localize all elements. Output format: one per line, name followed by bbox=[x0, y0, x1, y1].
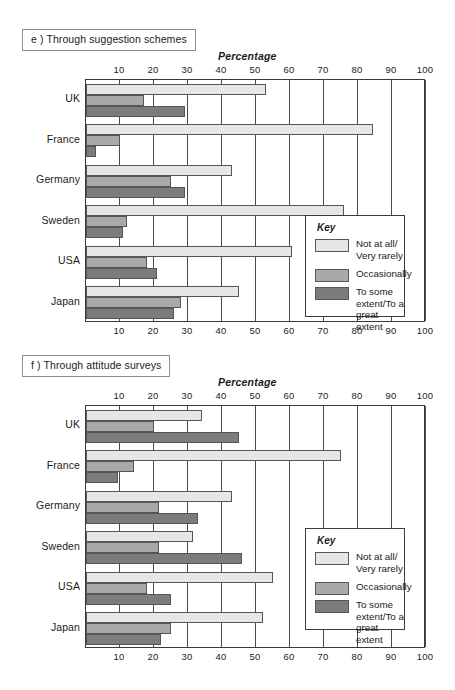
key-entry: Not at all/ Very rarely bbox=[315, 238, 403, 261]
category-label: Germany bbox=[2, 499, 80, 511]
bar bbox=[86, 542, 159, 553]
bar bbox=[86, 634, 161, 645]
bar-group bbox=[86, 487, 424, 528]
x-tick-label: 20 bbox=[148, 390, 159, 401]
x-tick-label: 60 bbox=[284, 64, 295, 75]
panel-e-axis-title: Percentage bbox=[218, 50, 277, 62]
category-label: France bbox=[2, 459, 80, 471]
key-swatch bbox=[315, 552, 349, 565]
bar bbox=[86, 84, 266, 95]
bar-group bbox=[86, 121, 424, 162]
key-label: Not at all/ Very rarely bbox=[356, 551, 403, 574]
key-entry: Not at all/ Very rarely bbox=[315, 551, 403, 574]
bar-group bbox=[86, 80, 424, 121]
bar bbox=[86, 531, 193, 542]
x-tick-label: 60 bbox=[284, 390, 295, 401]
key-label: Not at all/ Very rarely bbox=[356, 238, 403, 261]
key-entry: Occasionally bbox=[315, 581, 412, 595]
x-tick-label: 100 bbox=[417, 64, 433, 75]
bar bbox=[86, 176, 171, 187]
panel-f-key: Key Not at all/ Very rarelyOccasionallyT… bbox=[305, 528, 405, 630]
x-tick-label: 30 bbox=[182, 64, 193, 75]
x-tick-label: 50 bbox=[250, 64, 261, 75]
key-swatch bbox=[315, 239, 349, 252]
category-label: UK bbox=[2, 418, 80, 430]
bar bbox=[86, 502, 159, 513]
bar bbox=[86, 297, 181, 308]
bar bbox=[86, 583, 147, 594]
x-tick-label: 40 bbox=[216, 390, 227, 401]
x-tick-label: 50 bbox=[250, 390, 261, 401]
category-label: Sweden bbox=[2, 214, 80, 226]
panel-e-title: e ) Through suggestion schemes bbox=[22, 29, 196, 51]
key-entry: To some extent/To a great extent bbox=[315, 599, 404, 645]
panel-f: f ) Through attitude surveys Percentage … bbox=[0, 330, 455, 690]
bar bbox=[86, 432, 239, 443]
category-label: UK bbox=[2, 92, 80, 104]
x-tick-label: 90 bbox=[386, 64, 397, 75]
x-tick-label: 70 bbox=[318, 64, 329, 75]
x-tick-label: 50 bbox=[250, 651, 261, 662]
bar bbox=[86, 572, 273, 583]
category-label: Japan bbox=[2, 295, 80, 307]
key-swatch bbox=[315, 269, 349, 282]
bar bbox=[86, 146, 96, 157]
category-label: Germany bbox=[2, 173, 80, 185]
key-heading: Key bbox=[317, 535, 335, 546]
bar-group bbox=[86, 161, 424, 202]
x-tick-label: 80 bbox=[352, 64, 363, 75]
bar bbox=[86, 106, 185, 117]
panel-f-tick-labels: 102030405060708090100 bbox=[85, 390, 425, 404]
bar bbox=[86, 623, 171, 634]
bar bbox=[86, 594, 171, 605]
panel-f-title: f ) Through attitude surveys bbox=[22, 355, 170, 377]
x-tick-label: 20 bbox=[148, 651, 159, 662]
category-label: Japan bbox=[2, 621, 80, 633]
panel-f-tick-labels-bottom: 102030405060708090100 bbox=[85, 651, 425, 665]
bar bbox=[86, 135, 120, 146]
x-tick-label: 40 bbox=[216, 64, 227, 75]
x-tick-label: 10 bbox=[114, 64, 125, 75]
panel-e: e ) Through suggestion schemes Percentag… bbox=[0, 0, 455, 330]
key-label: Occasionally bbox=[356, 268, 412, 280]
bar bbox=[86, 421, 154, 432]
x-tick-label: 60 bbox=[284, 651, 295, 662]
category-label: Sweden bbox=[2, 540, 80, 552]
bar bbox=[86, 553, 242, 564]
x-tick-label: 90 bbox=[386, 390, 397, 401]
bar bbox=[86, 268, 157, 279]
key-swatch bbox=[315, 287, 349, 300]
key-swatch bbox=[315, 582, 349, 595]
bar bbox=[86, 257, 147, 268]
bar-group bbox=[86, 447, 424, 488]
bar bbox=[86, 216, 127, 227]
gridline bbox=[425, 406, 426, 647]
panel-e-key: Key Not at all/ Very rarelyOccasionallyT… bbox=[305, 215, 405, 317]
bar bbox=[86, 286, 239, 297]
key-label: To some extent/To a great extent bbox=[356, 599, 404, 645]
x-tick-label: 70 bbox=[318, 651, 329, 662]
bar bbox=[86, 450, 341, 461]
key-swatch bbox=[315, 600, 349, 613]
bar bbox=[86, 491, 232, 502]
bar bbox=[86, 187, 185, 198]
key-entry: Occasionally bbox=[315, 268, 412, 282]
x-tick-label: 100 bbox=[417, 651, 433, 662]
key-heading: Key bbox=[317, 222, 335, 233]
key-label: Occasionally bbox=[356, 581, 412, 593]
bar bbox=[86, 124, 373, 135]
category-label: France bbox=[2, 133, 80, 145]
key-label: To some extent/To a great extent bbox=[356, 286, 404, 332]
bar bbox=[86, 612, 263, 623]
x-tick-label: 80 bbox=[352, 651, 363, 662]
x-tick-label: 90 bbox=[386, 651, 397, 662]
panel-e-tick-labels: 102030405060708090100 bbox=[85, 64, 425, 78]
bar bbox=[86, 410, 202, 421]
bar bbox=[86, 165, 232, 176]
x-tick-label: 80 bbox=[352, 390, 363, 401]
x-tick-label: 70 bbox=[318, 390, 329, 401]
category-label: USA bbox=[2, 254, 80, 266]
x-tick-label: 10 bbox=[114, 651, 125, 662]
bar bbox=[86, 461, 134, 472]
gridline bbox=[425, 80, 426, 321]
